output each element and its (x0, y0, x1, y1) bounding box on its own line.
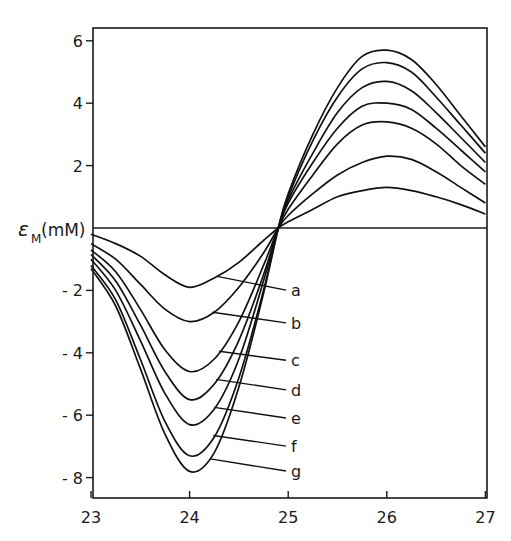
curve-label-e: e (291, 409, 301, 428)
curve-g (91, 50, 485, 472)
curve-e (91, 81, 485, 425)
y-axis-label: ε M (mM) (18, 217, 86, 246)
x-tick-label: 26 (377, 508, 397, 527)
spectrum-curves (91, 50, 485, 472)
y-tick-label: 4 (73, 94, 83, 113)
x-axis-ticks: 2324252627 (81, 491, 496, 527)
leader-line-g (210, 459, 286, 471)
y-tick-label: 2 (73, 157, 83, 176)
x-tick-label: 24 (179, 508, 199, 527)
y-tick-label: - 2 (62, 281, 83, 300)
cd-spectrum-chart: 2324252627 642- 2- 4- 6- 8 ε M (mM) abcd… (0, 0, 511, 541)
y-axis-label-unit: (mM) (41, 220, 86, 240)
x-tick-label: 27 (475, 508, 495, 527)
y-tick-label: - 6 (62, 406, 83, 425)
curve-c (91, 122, 485, 372)
y-tick-label: 6 (73, 32, 83, 51)
x-tick-label: 23 (81, 508, 101, 527)
curve-d (91, 103, 485, 400)
y-tick-label: - 8 (62, 469, 83, 488)
curve-b (91, 156, 485, 322)
x-tick-label: 25 (278, 508, 298, 527)
leader-line-f (213, 435, 286, 446)
curve-label-d: d (291, 381, 301, 400)
curve-label-a: a (291, 281, 301, 300)
y-tick-label: - 4 (62, 344, 83, 363)
curve-label-b: b (291, 314, 301, 333)
curve-label-f: f (291, 437, 297, 456)
axes: 2324252627 642- 2- 4- 6- 8 (62, 28, 496, 527)
curve-label-c: c (291, 351, 300, 370)
y-axis-label-subscript: M (31, 232, 41, 246)
plot-frame (93, 28, 487, 498)
leader-line-a (217, 276, 286, 290)
y-axis-label-symbol: ε (18, 217, 29, 241)
curve-label-g: g (291, 462, 301, 481)
y-axis-ticks: 642- 2- 4- 6- 8 (62, 32, 93, 488)
